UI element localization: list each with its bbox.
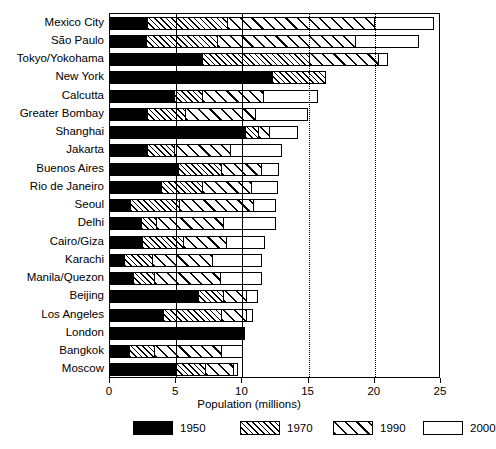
bar-row xyxy=(110,272,262,285)
bar-segment-1950 xyxy=(110,90,175,103)
legend-label: 1970 xyxy=(287,421,313,435)
plot-area xyxy=(109,13,440,378)
bar-segment-1990 xyxy=(156,217,225,230)
y-axis-label: Jakarta xyxy=(66,143,104,156)
bar-segment-1970 xyxy=(202,53,311,66)
bar-segment-1950 xyxy=(110,254,125,267)
y-axis-label: Moscow xyxy=(62,362,104,375)
bar-segment-1970 xyxy=(141,217,157,230)
bar-row xyxy=(110,71,326,84)
legend-swatch-1970 xyxy=(240,421,280,435)
x-tick xyxy=(241,378,242,383)
bar-segment-1970 xyxy=(130,199,180,212)
bar-segment-1970 xyxy=(146,35,217,48)
x-tick xyxy=(175,378,176,383)
bar-segment-1990 xyxy=(227,17,375,30)
bar-segment-1990 xyxy=(202,181,252,194)
y-axis-label: Cairo/Giza xyxy=(50,235,104,248)
bar-row xyxy=(110,181,278,194)
bar-segment-1970 xyxy=(245,126,258,139)
bar-row xyxy=(110,327,245,340)
bar-segment-2000 xyxy=(246,309,253,322)
y-axis-label: Karachi xyxy=(65,253,104,266)
bar-segment-1950 xyxy=(110,236,143,249)
bar-segment-1970 xyxy=(161,181,203,194)
legend-item-1950[interactable]: 1950 xyxy=(133,420,206,436)
legend-item-1970[interactable]: 1970 xyxy=(240,420,313,436)
legend-label: 2000 xyxy=(470,421,496,435)
bar-segment-1970 xyxy=(147,17,228,30)
legend-swatch-1990 xyxy=(333,421,373,435)
y-axis-label: New York xyxy=(55,70,104,83)
x-axis-title-text: Population (millions) xyxy=(197,398,301,410)
x-tick-label: 10 xyxy=(235,384,248,398)
bar-row xyxy=(110,144,282,157)
bar-segment-1950 xyxy=(110,181,162,194)
x-tick-label: 15 xyxy=(301,384,314,398)
bar-rows xyxy=(110,14,439,377)
bar-segment-1990 xyxy=(202,90,264,103)
bar-row xyxy=(110,35,419,48)
y-axis-label: São Paulo xyxy=(51,34,104,47)
bar-row xyxy=(110,290,258,303)
bar-segment-2000 xyxy=(378,53,387,66)
y-axis-label: Shanghai xyxy=(55,125,104,138)
x-axis-title: Population (millions) xyxy=(0,398,462,410)
x-tick-label: 0 xyxy=(106,384,112,398)
bar-segment-1950 xyxy=(110,290,199,303)
bar-segment-1990 xyxy=(154,345,222,358)
y-axis-label: Rio de Janeiro xyxy=(30,180,104,193)
bar-row xyxy=(110,108,308,121)
y-axis-label: Tokyo/Yokohama xyxy=(17,52,104,65)
bar-row xyxy=(110,163,279,176)
x-tick-label: 5 xyxy=(172,384,178,398)
bar-row xyxy=(110,217,276,230)
gridline-20 xyxy=(375,14,377,377)
bar-segment-2000 xyxy=(253,199,277,212)
y-axis-label: Bangkok xyxy=(59,344,104,357)
bar-row xyxy=(110,90,318,103)
bar-segment-1970 xyxy=(198,290,224,303)
bar-segment-1950 xyxy=(110,53,203,66)
bar-segment-1950 xyxy=(110,345,130,358)
x-tick xyxy=(374,378,375,383)
bar-segment-1970 xyxy=(178,163,222,176)
bar-segment-2000 xyxy=(269,126,298,139)
y-axis-label: Mexico City xyxy=(45,16,104,29)
bar-segment-1950 xyxy=(110,71,273,84)
y-axis-label: Manila/Quezon xyxy=(27,271,104,284)
bar-segment-1950 xyxy=(110,126,246,139)
bar-segment-1950 xyxy=(110,309,164,322)
bar-segment-1950 xyxy=(110,17,148,30)
bar-segment-1990 xyxy=(174,144,231,157)
legend-item-2000[interactable]: 2000 xyxy=(423,420,496,436)
bar-segment-2000 xyxy=(251,181,277,194)
y-axis-label: Greater Bombay xyxy=(20,107,104,120)
gridline-5 xyxy=(176,14,177,377)
bar-segment-2000 xyxy=(261,163,280,176)
bar-segment-2000 xyxy=(355,35,420,48)
bar-segment-1970 xyxy=(174,90,203,103)
x-tick xyxy=(440,378,441,383)
bar-row xyxy=(110,236,265,249)
bar-row xyxy=(110,17,434,30)
y-axis-label: Beijing xyxy=(69,289,104,302)
bar-segment-2000 xyxy=(223,217,276,230)
bar-segment-1950 xyxy=(110,363,176,376)
bar-segment-1970 xyxy=(129,345,155,358)
bar-segment-1990 xyxy=(152,254,213,267)
bar-segment-1990 xyxy=(221,163,262,176)
x-tick-label: 20 xyxy=(367,384,380,398)
bar-segment-1970 xyxy=(124,254,153,267)
bar-segment-1990 xyxy=(309,53,379,66)
legend-item-1990[interactable]: 1990 xyxy=(333,420,406,436)
bar-segment-1950 xyxy=(110,272,134,285)
bar-row xyxy=(110,126,298,139)
bar-row xyxy=(110,363,238,376)
bar-segment-1990 xyxy=(223,290,247,303)
bar-segment-2000 xyxy=(226,236,264,249)
bar-segment-2000 xyxy=(255,108,308,121)
bar-segment-1990 xyxy=(217,35,356,48)
bar-row xyxy=(110,309,253,322)
